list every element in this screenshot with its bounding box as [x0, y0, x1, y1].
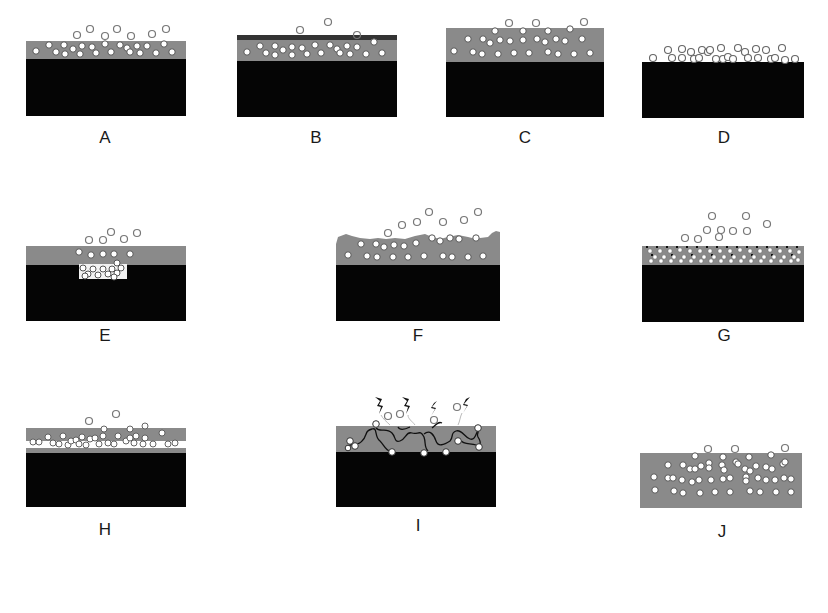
panel-c: C: [420, 0, 620, 160]
panel-e: E: [0, 195, 210, 355]
panel-label-a: A: [85, 128, 125, 148]
panel-label-j: J: [702, 522, 742, 542]
panel-label-e: E: [85, 326, 125, 346]
panel-label-b: B: [296, 128, 336, 148]
panel-label-d: D: [704, 128, 744, 148]
panel-h: H: [0, 390, 210, 540]
panel-a: A: [0, 0, 210, 160]
panel-i: I: [320, 385, 520, 540]
panel-f: F: [320, 195, 520, 355]
panel-j: J: [620, 420, 828, 560]
panel-label-i: I: [398, 516, 438, 536]
panel-h-illustration: [0, 390, 210, 540]
panel-d: D: [620, 0, 828, 160]
panel-label-g: G: [704, 326, 744, 346]
panel-g: G: [620, 195, 828, 355]
panel-label-h: H: [85, 520, 125, 540]
panel-label-c: C: [505, 128, 545, 148]
panel-b: B: [210, 0, 420, 160]
panel-label-f: F: [398, 326, 438, 346]
